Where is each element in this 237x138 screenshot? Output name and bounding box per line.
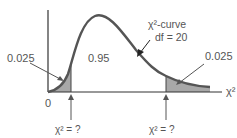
left-tail-arrow	[30, 63, 62, 80]
origin-label: 0	[45, 97, 51, 109]
df-label: df = 20	[155, 31, 188, 43]
chi-square-diagram: 0.025 0.95 0.025 χ²-curve df = 20 0 χ² χ…	[0, 0, 237, 138]
curve-name-label: χ²-curve	[148, 18, 186, 30]
right-critical-arrowhead	[163, 94, 169, 100]
center-area-label: 0.95	[88, 52, 109, 64]
right-critical-label: χ² = ?	[149, 124, 175, 135]
right-tail-area-label: 0.025	[205, 50, 233, 62]
right-tail-arrow	[179, 64, 204, 83]
left-critical-arrowhead	[68, 94, 74, 100]
left-tail-arrowhead	[57, 76, 64, 81]
left-tail-area-label: 0.025	[7, 52, 35, 64]
left-critical-label: χ² = ?	[55, 124, 81, 135]
x-axis-label: χ²	[226, 85, 236, 97]
